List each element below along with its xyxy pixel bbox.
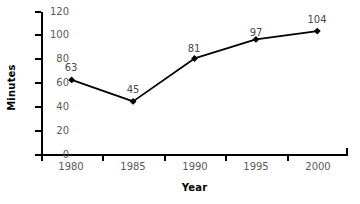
data-point-2000 [314, 28, 321, 35]
data-label-1985: 45 [113, 85, 153, 95]
data-label-1980: 63 [51, 63, 91, 73]
series-line [72, 31, 318, 101]
data-point-1980 [68, 77, 75, 84]
data-label-1995: 97 [236, 28, 276, 38]
line-chart: 0 20 40 60 80 100 120 1980 1985 1990 199… [0, 0, 360, 204]
series-plot [0, 0, 360, 204]
series-markers [68, 28, 320, 105]
data-label-1990: 81 [174, 44, 214, 54]
data-label-2000: 104 [297, 15, 337, 25]
